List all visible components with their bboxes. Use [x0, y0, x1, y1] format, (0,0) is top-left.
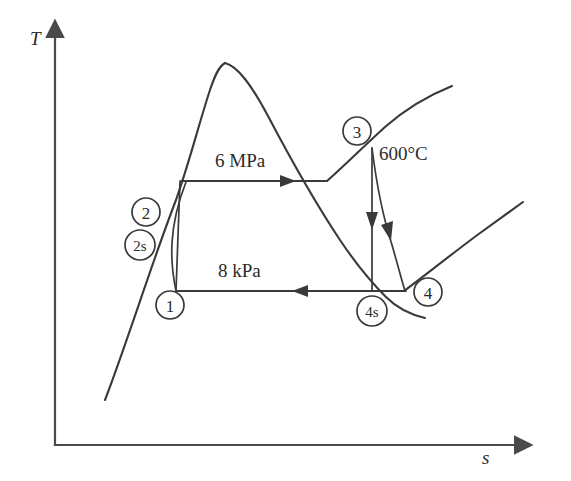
boiler-flow-arrow-icon	[280, 175, 296, 187]
state-label-2: 2	[142, 204, 151, 223]
isobar-8kpa-superheat-line	[404, 202, 523, 291]
condenser-pressure-label: 8 kPa	[218, 260, 261, 281]
state-point-2s[interactable]: 2s	[125, 230, 155, 260]
state-point-3[interactable]: 3	[343, 117, 371, 145]
state-point-1[interactable]: 1	[156, 291, 184, 319]
turbine-isentropic-arrow-icon	[366, 212, 378, 230]
state-label-1: 1	[166, 297, 175, 316]
process-pump-group	[172, 181, 186, 291]
ts-diagram-figure: T s 6 MPa 8 kPa	[0, 0, 571, 481]
boiler-pressure-label: 6 MPa	[215, 150, 266, 171]
turbine-inlet-temperature-label: 600°C	[379, 143, 428, 164]
state-point-4[interactable]: 4	[414, 278, 442, 306]
state-point-2[interactable]: 2	[132, 198, 160, 226]
entropy-axis-label: s	[482, 447, 489, 468]
state-label-4: 4	[424, 284, 433, 303]
state-label-4s: 4s	[365, 304, 379, 320]
ts-diagram-canvas: T s 6 MPa 8 kPa	[0, 0, 571, 481]
turbine-actual-arrow-icon	[381, 221, 393, 241]
state-point-4s[interactable]: 4s	[357, 296, 387, 326]
state-label-3: 3	[353, 123, 362, 142]
saturation-dome-group	[105, 63, 425, 400]
process-turbine-group: 600°C	[366, 143, 428, 291]
turbine-actual-line	[372, 148, 405, 291]
condenser-flow-arrow-icon	[292, 285, 308, 297]
state-label-2s: 2s	[133, 238, 147, 254]
process-boiler-2-3: 6 MPa	[181, 150, 327, 187]
saturated-liquid-line	[105, 63, 225, 400]
temperature-axis-label: T	[30, 28, 42, 49]
axes-group: T s	[30, 28, 516, 468]
